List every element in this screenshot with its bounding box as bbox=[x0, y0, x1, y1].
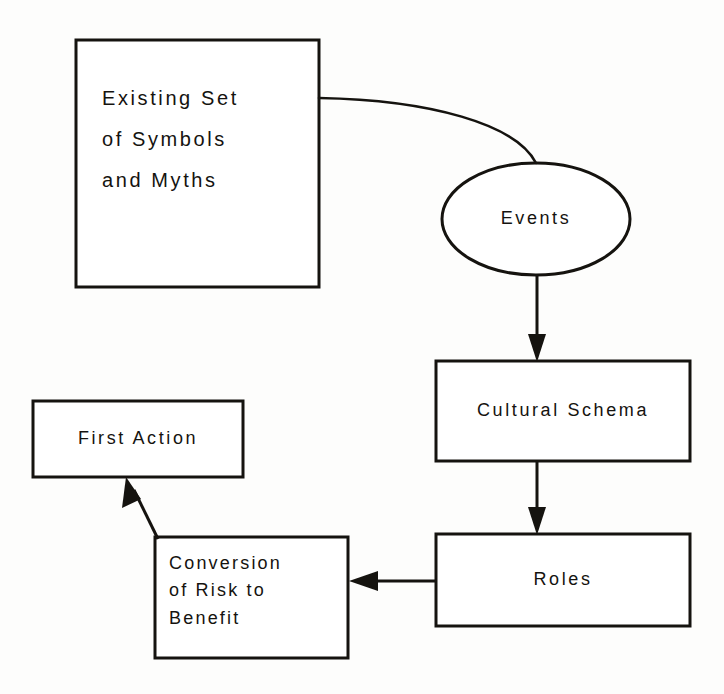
node-cultural-schema[interactable] bbox=[436, 361, 690, 461]
connector-roles-to-conversion bbox=[349, 571, 436, 591]
node-events[interactable] bbox=[442, 163, 630, 275]
node-existing-set-of-symbols-and-myths[interactable] bbox=[76, 40, 319, 287]
connector-events-to-cultural-schema bbox=[528, 275, 546, 362]
connector-existing-to-events bbox=[319, 98, 536, 163]
node-roles[interactable] bbox=[436, 534, 690, 626]
node-conversion-of-risk-to-benefit[interactable] bbox=[155, 537, 348, 658]
node-first-action[interactable] bbox=[33, 401, 243, 477]
connector-cultural-schema-to-roles bbox=[528, 461, 546, 535]
connector-conversion-to-first-action bbox=[122, 477, 158, 539]
diagram-canvas: Existing Set of Symbols and Myths Events… bbox=[0, 0, 724, 694]
